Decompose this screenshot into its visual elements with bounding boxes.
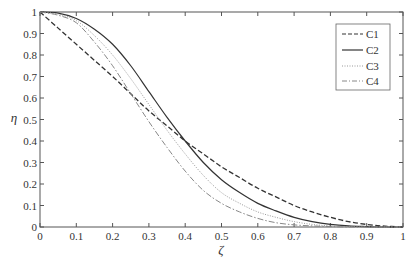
x-tick-label: 0.4 xyxy=(178,230,192,242)
x-tick-label: 1 xyxy=(400,230,406,242)
legend-label-c2: C2 xyxy=(366,44,379,56)
y-tick-label: 0.7 xyxy=(23,71,37,83)
legend-label-c1: C1 xyxy=(366,28,379,40)
legend-label-c4: C4 xyxy=(366,75,379,87)
y-tick-label: 0.4 xyxy=(23,135,37,147)
x-tick-label: 0.2 xyxy=(106,230,120,242)
x-tick-label: 0.8 xyxy=(324,230,338,242)
line-chart: 00.10.20.30.40.50.60.70.80.91 00.10.20.3… xyxy=(0,0,412,263)
x-tick-label: 0.7 xyxy=(287,230,301,242)
y-tick-label: 0.9 xyxy=(23,28,37,40)
y-tick-label: 0 xyxy=(32,221,38,233)
y-tick-label: 0.3 xyxy=(23,157,37,169)
y-tick-label: 0.6 xyxy=(23,92,37,104)
y-tick-label: 0.1 xyxy=(23,200,37,212)
y-axis-label: η xyxy=(11,110,17,125)
x-tick-label: 0.9 xyxy=(360,230,374,242)
x-tick-label: 0.3 xyxy=(142,230,156,242)
x-tick-label: 0 xyxy=(37,230,43,242)
x-tick-label: 0.5 xyxy=(215,230,229,242)
x-tick-label: 0.6 xyxy=(251,230,265,242)
y-tick-label: 0.8 xyxy=(23,49,37,61)
y-tick-label: 0.5 xyxy=(23,114,37,126)
x-axis-label: ζ xyxy=(218,242,224,257)
legend: C1 C2 C3 C4 xyxy=(336,24,390,90)
x-tick-label: 0.1 xyxy=(69,230,83,242)
legend-label-c3: C3 xyxy=(366,60,379,72)
y-tick-label: 0.2 xyxy=(23,178,37,190)
y-tick-label: 1 xyxy=(32,6,38,18)
